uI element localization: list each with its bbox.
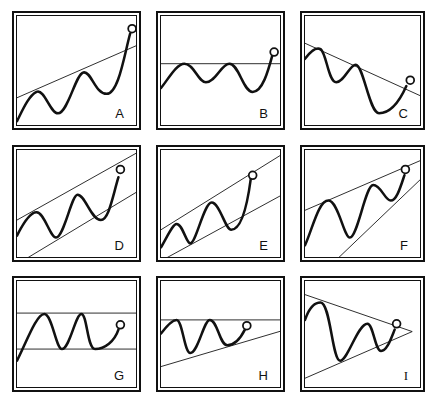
- trend-line: [305, 332, 412, 379]
- pattern-panel-d: D: [12, 145, 141, 262]
- panel-label: D: [115, 239, 124, 252]
- panel-label: B: [259, 107, 268, 120]
- breakout-point-icon: [116, 166, 124, 174]
- pattern-panel-h: H: [156, 276, 285, 392]
- trend-line: [17, 150, 136, 220]
- price-curve: [161, 179, 251, 247]
- panel-label: F: [400, 239, 408, 252]
- panel-frame: F: [304, 149, 421, 258]
- breakout-point-icon: [406, 76, 414, 84]
- pattern-panel-a: A: [12, 11, 141, 130]
- panel-label: C: [399, 107, 408, 120]
- panel-frame: B: [160, 15, 281, 126]
- pattern-panel-i: I: [300, 276, 425, 392]
- pattern-panel-b: B: [156, 11, 285, 130]
- breakout-point-icon: [243, 322, 251, 330]
- panel-label: E: [259, 239, 268, 252]
- price-curve: [305, 175, 404, 245]
- panel-label: H: [259, 369, 268, 382]
- price-curve: [17, 34, 130, 122]
- breakout-point-icon: [393, 320, 401, 328]
- chart-pattern-grid: ABCDEFGHI: [0, 0, 435, 402]
- breakout-point-icon: [270, 48, 278, 56]
- panel-frame: G: [16, 280, 137, 388]
- price-curve: [17, 314, 118, 361]
- panel-frame: C: [304, 15, 421, 126]
- pattern-panel-g: G: [12, 276, 141, 392]
- price-curve: [305, 49, 406, 114]
- price-curve: [161, 56, 272, 92]
- breakout-point-icon: [128, 25, 136, 33]
- trend-line: [17, 43, 136, 98]
- breakout-point-icon: [249, 171, 257, 179]
- pattern-panel-f: F: [300, 145, 425, 262]
- price-curve: [17, 177, 118, 237]
- pattern-panel-e: E: [156, 145, 285, 262]
- panel-label: G: [114, 369, 124, 382]
- pattern-panel-c: C: [300, 11, 425, 130]
- panel-frame: D: [16, 149, 137, 258]
- price-curve: [305, 302, 395, 360]
- panel-frame: E: [160, 149, 281, 258]
- panel-frame: I: [304, 280, 421, 388]
- breakout-point-icon: [401, 166, 409, 174]
- panel-label: I: [404, 369, 408, 382]
- trend-line: [161, 152, 280, 230]
- panel-label: A: [115, 107, 124, 120]
- panel-frame: H: [160, 280, 281, 388]
- panel-frame: A: [16, 15, 137, 126]
- breakout-point-icon: [116, 321, 124, 329]
- price-curve: [161, 320, 245, 353]
